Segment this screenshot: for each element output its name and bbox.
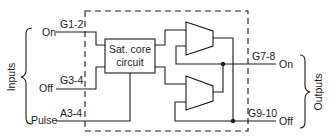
core-label-line1: Sat. core [109, 43, 151, 55]
amplifier-lower [186, 76, 213, 110]
input-off-label: Off [39, 82, 53, 94]
amp1-feedback-wire [176, 46, 223, 64]
output-off-label: Off [279, 115, 293, 127]
outputs-label: Outputs [312, 74, 324, 111]
inputs-label: Inputs [5, 63, 17, 92]
output-on-pin: G7-8 [252, 50, 276, 62]
junction-dot-off [231, 119, 235, 123]
core-to-amp2-wire [155, 67, 186, 84]
junction-dot-on [221, 62, 225, 66]
outputs-brace [300, 55, 310, 128]
input-on-pin: G1-2 [60, 18, 84, 30]
amp2-feedback-wire [175, 102, 233, 121]
amplifier-upper [186, 22, 213, 55]
output-on-label: On [279, 58, 293, 70]
amp2-output-wire [213, 64, 223, 92]
input-pulse-label: Pulse [31, 114, 57, 126]
input-on-label: On [42, 26, 56, 38]
output-off-pin: G9-10 [248, 107, 277, 119]
input-pulse-pin: A3-4 [60, 107, 82, 119]
core-label-line2: circuit [116, 56, 144, 68]
flip-flop-diagram: Inputs On G1-2 Off G3-4 Pulse A3-4 Sat. … [0, 0, 330, 140]
inputs-brace [21, 28, 32, 124]
input-off-pin: G3-4 [60, 74, 84, 86]
input-on-wire [56, 32, 105, 45]
core-to-amp1-wire [155, 30, 186, 45]
